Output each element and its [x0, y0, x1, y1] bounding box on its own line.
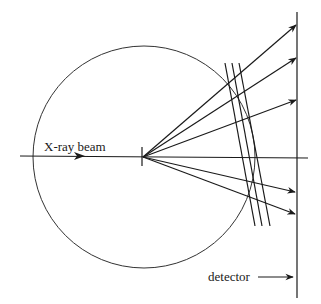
diffracted-beams [143, 25, 296, 214]
beam-label: X-ray beam [44, 139, 106, 154]
diffraction-diagram: X-ray beam detector [0, 0, 321, 304]
incident-beam-line [20, 156, 308, 158]
detector-label: detector [208, 269, 251, 284]
